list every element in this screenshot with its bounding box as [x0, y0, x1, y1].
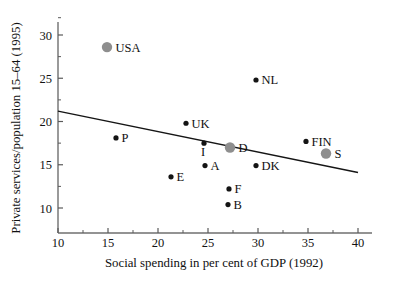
y-axis-tick-label: 10: [40, 202, 53, 216]
data-point-label-a: A: [211, 159, 220, 173]
data-point-label-f: F: [235, 182, 242, 196]
scatter-chart-figure: 101520253035401015202530USANLUKPFINIDSAD…: [0, 0, 393, 289]
data-point-dk[interactable]: [253, 163, 258, 168]
data-point-label-i: I: [201, 145, 205, 159]
x-axis-tick-label: 20: [152, 236, 165, 250]
data-point-nl[interactable]: [253, 77, 258, 82]
y-axis-title: Private services/population 15–64 (1995): [9, 22, 23, 233]
data-point-usa[interactable]: [102, 42, 112, 52]
data-point-label-dk: DK: [262, 159, 280, 173]
data-point-label-d: D: [239, 141, 248, 155]
data-point-a[interactable]: [202, 163, 207, 168]
data-point-label-e: E: [177, 170, 185, 184]
data-point-label-usa: USA: [116, 41, 141, 55]
x-axis-tick-label: 25: [202, 236, 215, 250]
y-axis-tick-label: 20: [40, 115, 53, 129]
data-point-e[interactable]: [168, 174, 173, 179]
x-axis-tick-label: 30: [252, 236, 265, 250]
data-point-label-b: B: [234, 198, 242, 212]
data-point-label-fin: FIN: [312, 135, 332, 149]
data-point-b[interactable]: [225, 202, 230, 207]
plot-area: 101520253035401015202530USANLUKPFINIDSAD…: [0, 0, 393, 289]
x-axis-tick-label: 15: [102, 236, 115, 250]
x-axis-tick-label: 35: [302, 236, 315, 250]
data-point-p[interactable]: [113, 135, 118, 140]
data-point-uk[interactable]: [183, 121, 188, 126]
data-point-label-uk: UK: [192, 117, 210, 131]
data-point-d[interactable]: [225, 142, 235, 152]
data-point-s[interactable]: [321, 148, 331, 158]
data-point-f[interactable]: [226, 186, 231, 191]
data-point-label-p: P: [122, 131, 129, 145]
data-point-fin[interactable]: [303, 139, 308, 144]
y-axis-tick-label: 25: [40, 72, 53, 86]
x-axis-tick-label: 40: [352, 236, 365, 250]
y-axis-tick-label: 30: [40, 29, 53, 43]
x-axis-title: Social spending in per cent of GDP (1992…: [105, 256, 323, 270]
y-axis-tick-label: 15: [40, 158, 53, 172]
x-axis-tick-label: 10: [52, 236, 65, 250]
data-point-label-s: S: [335, 147, 342, 161]
data-point-label-nl: NL: [262, 73, 279, 87]
